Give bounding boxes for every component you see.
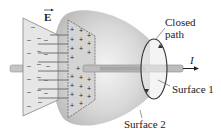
svg-text:+: + [70,54,74,61]
svg-text:+: + [79,45,83,52]
right-wire-dashed [100,67,146,71]
svg-text:+: + [70,102,74,109]
svg-text:+: + [87,49,91,56]
svg-text:+: + [87,32,91,39]
svg-text:+: + [70,82,74,89]
svg-text:–: – [44,76,48,83]
svg-text:+: + [79,27,83,34]
field-label: E [44,12,51,23]
svg-text:–: – [44,36,48,43]
closed-path-leader [155,28,165,40]
svg-text:+: + [76,65,80,72]
closed-path-label-line1: Closed [165,17,196,28]
svg-text:–: – [38,98,42,105]
svg-text:–: – [27,75,31,82]
svg-text:–: – [37,73,41,80]
svg-text:+: + [79,92,83,99]
diagram-canvas: – ––– ––– ––– ––– ––– –– +++ +++ +++ ++ … [0,0,221,134]
svg-text:+: + [79,74,83,81]
svg-text:–: – [37,34,41,41]
closed-path-label-line2: path [165,29,184,40]
left-wire [10,65,24,72]
svg-text:+: + [79,36,83,43]
svg-text:+: + [87,85,91,92]
current-arrow-icon [194,66,199,70]
svg-text:–: – [27,36,31,43]
svg-text:+: + [70,26,74,33]
svg-text:+: + [79,100,83,107]
svg-text:+: + [70,73,74,80]
surface-2-label: Surface 2 [124,119,166,130]
current-label: I [190,55,194,66]
svg-text:+: + [70,45,74,52]
svg-text:–: – [27,62,31,69]
svg-text:–: – [27,88,31,95]
svg-text:–: – [44,50,48,57]
surface-1-label: Surface 1 [172,84,214,95]
svg-text:–: – [37,60,41,67]
svg-text:+: + [70,36,74,43]
svg-text:–: – [27,102,31,109]
svg-text:–: – [31,23,35,30]
svg-text:–: – [27,49,31,56]
svg-text:–: – [46,62,50,69]
svg-text:+: + [79,83,83,90]
svg-text:+: + [87,76,91,83]
svg-text:–: – [37,86,41,93]
svg-text:–: – [44,89,48,96]
surface2-leader [140,110,142,118]
svg-text:+: + [70,91,74,98]
svg-text:+: + [87,40,91,47]
svg-text:+: + [87,93,91,100]
